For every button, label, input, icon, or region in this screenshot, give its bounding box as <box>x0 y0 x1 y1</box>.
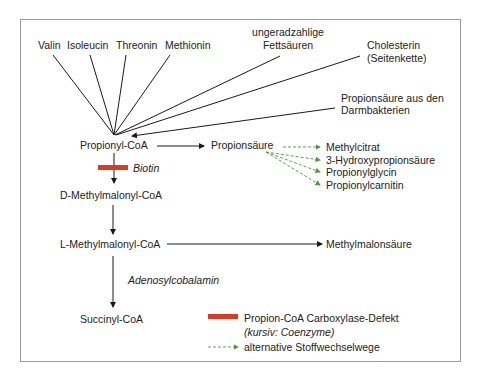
node-propionsaeure: Propionsäure <box>211 139 273 151</box>
node-d-methylmalonyl-coa: D-Methylmalonyl-CoA <box>60 189 162 201</box>
coenzyme-adenosylcobalamin: Adenosylcobalamin <box>128 274 219 286</box>
source-fettsaeuren-line1: ungeradzahlige <box>250 26 326 38</box>
coenzyme-biotin: Biotin <box>133 162 159 174</box>
legend-defect-swatch <box>208 314 238 319</box>
source-valin: Valin <box>38 39 61 51</box>
source-darm-line1: Propionsäure aus den <box>341 92 444 104</box>
source-fettsaeuren-line2: Fettsäuren <box>250 39 326 51</box>
alt-product: Propionylcarnitin <box>326 179 404 191</box>
node-l-methylmalonyl-coa: L-Methylmalonyl-CoA <box>60 238 160 250</box>
legend-defect-label: Propion-CoA Carboxylase-Defekt <box>244 312 399 324</box>
source-darm-line2: Darmbakterien <box>341 104 410 116</box>
source-cholesterin-line1: Cholesterin <box>367 39 420 51</box>
alt-product: Propionylglycin <box>326 166 397 178</box>
alt-product: Methylcitrat <box>326 141 380 153</box>
alt-product: 3-Hydroxypropionsäure <box>326 154 435 166</box>
source-threonin: Threonin <box>116 39 157 51</box>
legend-coenzyme-note: (kursiv: Coenzyme) <box>244 326 334 338</box>
defect-bar <box>98 165 128 170</box>
legend-alt-label: alternative Stoffwechselwege <box>244 341 380 353</box>
node-propionyl-coa: Propionyl-CoA <box>80 139 148 151</box>
source-methionin: Methionin <box>165 39 211 51</box>
source-isoleucin: Isoleucin <box>67 39 108 51</box>
node-succinyl-coa: Succinyl-CoA <box>80 313 143 325</box>
node-methylmalonsaeure: Methylmalonsäure <box>326 238 412 250</box>
source-cholesterin-line2: (Seitenkette) <box>367 52 427 64</box>
